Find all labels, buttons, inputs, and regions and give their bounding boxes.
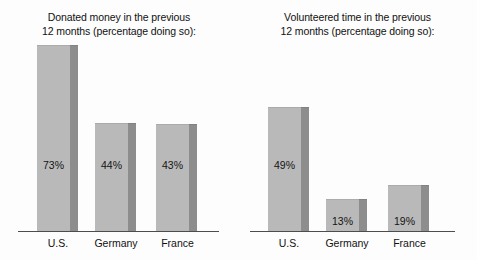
bar-side-face [128, 123, 136, 231]
category-label-france: France [150, 237, 205, 249]
bar-chart-figure: Donated money in the previous 12 months … [0, 0, 477, 260]
category-label-germany: Germany [316, 237, 378, 249]
bar-side-face [301, 107, 309, 231]
bar-value-label: 73% [37, 159, 70, 171]
category-label-us: U.S. [264, 237, 314, 249]
bar-value-label: 49% [268, 159, 301, 171]
bar-value-label: 19% [388, 215, 421, 227]
bar-germany: 44% [95, 123, 136, 231]
bar-france: 19% [388, 185, 429, 231]
bar-side-face [359, 199, 367, 231]
bar-germany: 13% [326, 199, 367, 231]
bar-value-label: 43% [156, 159, 189, 171]
x-axis-baseline [18, 231, 219, 233]
bar-value-label: 44% [95, 159, 128, 171]
bar-front-face [156, 124, 189, 231]
bar-front-face [95, 123, 128, 231]
plot-area-donated-money: 73% 44% 43% [0, 0, 238, 232]
x-axis-baseline [250, 231, 455, 233]
category-label-germany: Germany [85, 237, 147, 249]
bar-us: 73% [37, 45, 78, 231]
bar-front-face [37, 45, 70, 231]
bar-side-face [189, 124, 197, 231]
category-label-france: France [382, 237, 437, 249]
bar-side-face [421, 185, 429, 231]
bar-france: 43% [156, 124, 197, 231]
bar-side-face [70, 45, 78, 231]
chart-panel-donated-money: Donated money in the previous 12 months … [0, 0, 238, 260]
plot-area-volunteered-time: 49% 13% 19% [238, 0, 477, 232]
bar-us: 49% [268, 107, 309, 231]
category-label-us: U.S. [33, 237, 83, 249]
chart-panel-volunteered-time: Volunteered time in the previous 12 mont… [238, 0, 477, 260]
bar-value-label: 13% [326, 215, 359, 227]
